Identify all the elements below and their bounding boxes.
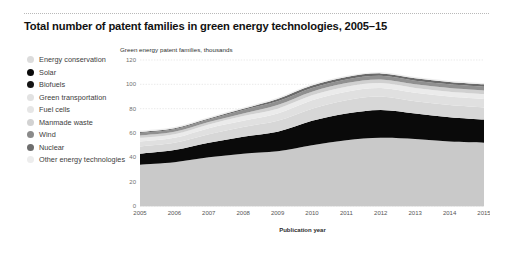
x-axis-label: Publication year [120,227,485,233]
legend-swatch-icon [27,119,34,126]
legend-item[interactable]: Biofuels [27,80,127,90]
legend-item[interactable]: Energy conservation [27,55,127,65]
chart-page: Total number of patent families in green… [0,0,511,257]
legend-item-label: Solar [39,68,56,78]
legend-swatch-icon [27,131,34,138]
x-tick-label: 2006 [168,210,182,216]
legend-item[interactable]: Fuel cells [27,105,127,115]
page-title: Total number of patent families in green… [24,20,387,32]
legend-swatch-icon [27,56,34,63]
legend-item[interactable]: Green transportation [27,93,127,103]
legend-swatch-icon [27,94,34,101]
x-tick-label: 2009 [271,210,285,216]
chart-legend: Energy conservationSolarBiofuelsGreen tr… [27,55,127,168]
x-tick-label: 2011 [340,210,354,216]
legend-item-label: Other energy technologies [39,155,125,165]
legend-item-label: Biofuels [39,80,65,90]
legend-swatch-icon [27,106,34,113]
legend-item-label: Wind [39,130,56,140]
x-tick-label: 2014 [443,210,457,216]
y-tick-label: 120 [126,57,137,63]
y-tick-label: 40 [129,154,136,160]
y-tick-label: 0 [133,203,137,209]
legend-item[interactable]: Solar [27,68,127,78]
legend-swatch-icon [27,69,34,76]
plot-area: Green energy patent families, thousands … [120,46,490,246]
legend-item-label: Fuel cells [39,105,70,115]
legend-item-label: Energy conservation [39,55,106,65]
legend-item-label: Green transportation [39,93,106,103]
legend-item[interactable]: Wind [27,130,127,140]
x-tick-label: 2007 [202,210,216,216]
y-tick-label: 80 [129,106,136,112]
y-tick-label: 100 [126,81,137,87]
legend-item[interactable]: Nuclear [27,143,127,153]
x-tick-label: 2010 [305,210,319,216]
x-tick-label: 2013 [409,210,423,216]
legend-item-label: Nuclear [39,143,64,153]
x-tick-label: 2005 [133,210,147,216]
x-tick-label: 2008 [237,210,251,216]
legend-swatch-icon [27,156,34,163]
x-tick-label: 2012 [374,210,388,216]
legend-item[interactable]: Other energy technologies [27,155,127,165]
legend-item-label: Manmade waste [39,118,93,128]
top-divider [24,13,489,15]
y-tick-label: 20 [129,179,136,185]
stacked-area-chart: 0204060801001202005200620072008200920102… [120,54,490,226]
legend-item[interactable]: Manmade waste [27,118,127,128]
legend-swatch-icon [27,144,34,151]
x-tick-label: 2015 [477,210,490,216]
y-tick-label: 60 [129,130,136,136]
y-axis-label: Green energy patent families, thousands [120,46,233,53]
legend-swatch-icon [27,81,34,88]
